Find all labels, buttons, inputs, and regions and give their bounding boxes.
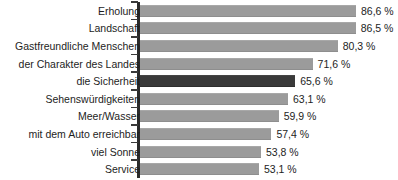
bar [140,128,271,140]
bar-row: Meer/Wasser59,9 % [0,108,398,126]
value-label: 53,1 % [264,163,297,175]
value-label: 59,9 % [284,110,317,122]
category-label: Gastfreundliche Menschen [15,40,140,52]
bar [140,163,259,175]
axis-tick [131,19,138,21]
bar-rows: Erholung86,6 %Landschaft86,5 %Gastfreund… [0,0,398,180]
bar-row: Sehenswürdigkeiten63,1 % [0,90,398,108]
axis-tick [131,142,138,144]
bar [140,110,279,122]
value-label: 63,1 % [293,93,326,105]
value-label: 86,6 % [361,5,394,17]
category-label: Service [105,163,140,175]
axis-tick [131,36,138,38]
value-label: 53,8 % [266,146,299,158]
category-label: Landschaft [89,22,140,34]
value-label: 71,6 % [318,58,351,70]
bar-row: Service53,1 % [0,160,398,178]
value-label: 86,5 % [361,22,394,34]
bar-row: mit dem Auto erreichbar57,4 % [0,125,398,143]
axis-tick [131,107,138,109]
value-label: 57,4 % [276,128,309,140]
category-label: Meer/Wasser [78,110,140,122]
bar [140,40,338,52]
bar-row: Gastfreundliche Menschen80,3 % [0,37,398,55]
axis-tick [131,71,138,73]
bar-row: der Charakter des Landes71,6 % [0,55,398,73]
category-label: die Sicherheit [76,75,140,87]
category-label: Sehenswürdigkeiten [45,93,140,105]
axis-tick [131,159,138,161]
category-label: mit dem Auto erreichbar [29,128,140,140]
axis-tick [131,1,138,3]
category-label: der Charakter des Landes [19,58,140,70]
category-label: Erholung [98,5,140,17]
bar-row: Erholung86,6 % [0,2,398,20]
bar-chart: Erholung86,6 %Landschaft86,5 %Gastfreund… [0,0,398,180]
bar [140,5,356,17]
category-label: viel Sonne [91,146,140,158]
value-label: 65,6 % [300,75,333,87]
bar-row: Landschaft86,5 % [0,20,398,38]
bar-highlighted [140,75,295,87]
bar [140,22,356,34]
bar-row: viel Sonne53,8 % [0,143,398,161]
bar [140,146,261,158]
value-label: 80,3 % [343,40,376,52]
bar-row: die Sicherheit65,6 % [0,72,398,90]
axis-tick [131,54,138,56]
bar [140,58,313,70]
axis-tick [131,89,138,91]
axis-tick [131,124,138,126]
bar [140,93,288,105]
